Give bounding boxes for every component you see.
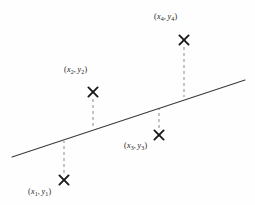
label-x-subscript: 2 (71, 69, 74, 75)
label-x-subscript: 3 (131, 145, 134, 151)
point-coordinate-label: (x3,y3) (124, 142, 147, 150)
label-y-subscript: 4 (171, 16, 174, 22)
data-point-marker (59, 175, 68, 184)
label-x-subscript: 1 (35, 191, 38, 197)
label-y-subscript: 2 (81, 69, 84, 75)
data-point-marker (88, 87, 97, 96)
label-x-subscript: 4 (161, 16, 164, 22)
data-point-markers-group (59, 35, 188, 184)
data-point-marker (154, 130, 163, 139)
point-coordinate-label: (x2,y2) (64, 66, 87, 74)
point-coordinate-label: (x4,y4) (154, 13, 177, 21)
label-y-subscript: 1 (45, 191, 48, 197)
data-point-marker (179, 35, 188, 44)
label-y-subscript: 3 (141, 145, 144, 151)
regression-diagram: (x1,y1)(x2,y2)(x3,y3)(x4,y4) (0, 0, 255, 205)
plot-canvas (0, 0, 255, 205)
point-coordinate-label: (x1,y1) (28, 188, 51, 196)
